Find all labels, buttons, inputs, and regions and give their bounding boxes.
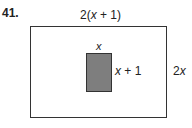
inner-shaded-rectangle xyxy=(86,53,112,92)
inner-height-label: x + 1 xyxy=(115,64,141,78)
inner-width-label: x xyxy=(96,40,102,52)
problem-number: 41. xyxy=(2,6,19,20)
outer-height-label-pre: 2 xyxy=(173,64,180,78)
inner-height-label-post: + 1 xyxy=(121,64,141,78)
outer-width-label-post: + 1) xyxy=(97,8,121,22)
outer-height-label: 2x xyxy=(173,64,186,78)
outer-width-label-pre: 2( xyxy=(80,8,91,22)
outer-width-label: 2(x + 1) xyxy=(80,8,121,22)
outer-height-label-var: x xyxy=(180,64,186,78)
